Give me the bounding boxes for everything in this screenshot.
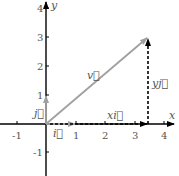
y-tick-label: 3 — [37, 32, 43, 43]
unit-vector-j-label: j⃗ — [31, 107, 44, 120]
component-xi-label: xi⃗ — [107, 109, 123, 122]
x-tick-label: 4 — [161, 130, 167, 141]
y-tick-label: 4 — [37, 3, 43, 14]
unit-vector-i-label: i⃗ — [53, 127, 63, 140]
vector-diagram: -1 1 2 3 4 4 3 2 1 -1 x y v⃗ j⃗ i⃗ xi⃗ y… — [0, 0, 179, 176]
y-tick-label: -1 — [33, 147, 43, 158]
x-tick-label: -1 — [12, 130, 22, 141]
x-axis-label: x — [169, 109, 176, 122]
x-tick-label: 2 — [102, 130, 108, 141]
y-tick-label: 1 — [37, 90, 43, 101]
component-yj-label: yj⃗ — [151, 77, 168, 90]
y-tick-label: 2 — [37, 61, 43, 72]
y-axis-label: y — [50, 0, 58, 12]
y-axis — [46, 2, 49, 176]
x-tick-label: 1 — [73, 130, 79, 141]
vector-v-label: v⃗ — [87, 69, 100, 82]
x-tick-label: 3 — [132, 130, 138, 141]
